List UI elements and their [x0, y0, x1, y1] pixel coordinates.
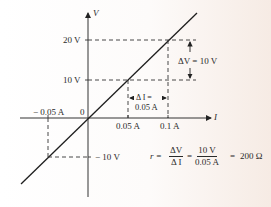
resistance-formula: r = ΔV Δ I = 10 V 0.05 A = 200 Ω [150, 144, 271, 170]
iv-characteristic-diagram: V I 0 20 V 10 V − 10 V 0.05 A 0.1 A − 0.… [0, 0, 271, 207]
x-axis-label: I [214, 113, 217, 122]
formula-eq1: = [187, 152, 192, 161]
delta-i-label-bottom: 0.05 A [135, 103, 158, 112]
formula-fraction-delta: ΔV Δ I [169, 146, 183, 167]
formula-fraction-values: 10 V 0.05 A [195, 146, 219, 167]
tick-label-10v: 10 V [63, 76, 81, 85]
delta-v-label: ΔV = 10 V [178, 57, 217, 66]
tick-label-20v: 20 V [63, 36, 81, 45]
tick-label-01a: 0.1 A [160, 122, 180, 131]
formula-frac2-den: 0.05 A [195, 157, 219, 167]
formula-frac1-den: Δ I [171, 157, 182, 167]
formula-frac1-num: ΔV [169, 146, 183, 157]
y-axis-label: V [93, 9, 99, 18]
delta-i-label-top: Δ I = [136, 94, 152, 102]
formula-frac2-num: 10 V [197, 146, 217, 157]
tick-label-neg005a: − 0.05 A [33, 108, 64, 117]
tick-label-neg10v: − 10 V [95, 153, 120, 162]
origin-label: 0 [80, 108, 85, 117]
formula-eq2: = [230, 152, 235, 161]
tick-label-005a: 0.05 A [116, 122, 140, 131]
dashed-guides [48, 40, 196, 157]
formula-lhs: r = [150, 152, 162, 161]
formula-result: 200 Ω [240, 152, 262, 161]
